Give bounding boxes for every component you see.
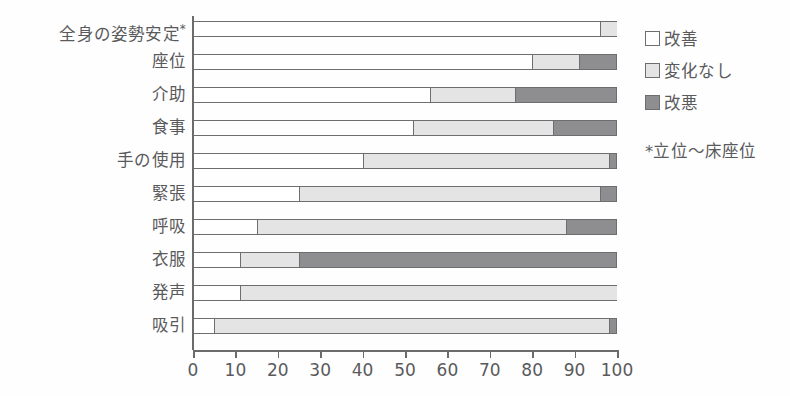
legend-footnote: *立位〜床座位: [645, 138, 790, 162]
stacked-bar: [193, 120, 617, 136]
x-axis: 0102030405060708090100: [193, 350, 617, 394]
x-axis-tick-label: 70: [479, 360, 501, 380]
x-axis-tick-label: 80: [521, 360, 543, 380]
x-axis-tick-label: 20: [267, 360, 289, 380]
bar-segment-改悪: [553, 120, 617, 136]
bar-row: [193, 249, 617, 271]
stacked-bar: [193, 54, 617, 70]
bar-segment-変化なし: [299, 186, 600, 202]
stacked-bar: [193, 186, 617, 202]
y-axis-label: 座位: [152, 51, 186, 73]
legend-item[interactable]: 変化なし: [645, 54, 790, 86]
bar-segment-改悪: [566, 219, 617, 235]
bar-segment-変化なし: [363, 153, 609, 169]
bar-row: [193, 117, 617, 139]
stacked-bar-chart: 全身の姿勢安定*座位介助食事手の使用緊張呼吸衣服発声吸引 01020304050…: [0, 0, 790, 396]
x-axis-tick-label: 30: [309, 360, 331, 380]
stacked-bar: [193, 87, 617, 103]
bar-segment-改善: [193, 318, 214, 334]
x-axis-tick: [405, 350, 407, 358]
y-axis-label: 食事: [152, 117, 186, 139]
bar-segment-変化なし: [430, 87, 515, 103]
x-axis-tick: [617, 350, 619, 358]
x-axis-tick: [363, 350, 365, 358]
bar-row: [193, 216, 617, 238]
bar-segment-改悪: [299, 252, 617, 268]
y-axis-label: 発声: [152, 282, 186, 304]
y-axis-label: 全身の姿勢安定*: [59, 18, 186, 40]
bar-row: [193, 150, 617, 172]
x-axis-tick-label: 50: [394, 360, 416, 380]
bar-segment-改善: [193, 21, 600, 37]
plot-area: [193, 18, 617, 348]
y-axis-label: 介助: [152, 84, 186, 106]
x-axis-tick-label: 100: [601, 360, 633, 380]
y-axis-category-labels: 全身の姿勢安定*座位介助食事手の使用緊張呼吸衣服発声吸引: [0, 18, 190, 348]
bar-segment-改善: [193, 87, 430, 103]
bar-row: [193, 51, 617, 73]
legend-label: 変化なし: [664, 58, 733, 82]
x-axis-tick: [575, 350, 577, 358]
bar-segment-改悪: [609, 318, 617, 334]
x-axis-tick-label: 0: [188, 360, 199, 380]
white-swatch: [645, 31, 660, 46]
bar-segment-改善: [193, 285, 240, 301]
legend-label: 改悪: [664, 90, 698, 114]
bar-segment-改悪: [515, 87, 617, 103]
bar-segment-改善: [193, 186, 299, 202]
x-axis-tick: [193, 350, 195, 358]
bar-segment-変化なし: [240, 285, 617, 301]
x-axis-tick: [490, 350, 492, 358]
bar-row: [193, 18, 617, 40]
bar-segment-変化なし: [257, 219, 567, 235]
light-gray-swatch: [645, 63, 660, 78]
y-axis-label: 呼吸: [152, 216, 186, 238]
stacked-bar: [193, 21, 617, 37]
bar-segment-変化なし: [214, 318, 608, 334]
x-axis-tick-label: 40: [352, 360, 374, 380]
stacked-bar: [193, 219, 617, 235]
y-axis-label: 衣服: [152, 249, 186, 271]
bar-segment-改善: [193, 120, 413, 136]
bar-segment-変化なし: [532, 54, 579, 70]
x-axis-tick: [235, 350, 237, 358]
legend: 改善変化なし改悪 *立位〜床座位: [645, 22, 790, 162]
legend-item[interactable]: 改悪: [645, 86, 790, 118]
bar-segment-改善: [193, 54, 532, 70]
x-axis-tick-label: 60: [437, 360, 459, 380]
x-axis-tick: [447, 350, 449, 358]
legend-items: 改善変化なし改悪: [645, 22, 790, 118]
stacked-bar: [193, 285, 617, 301]
x-axis-tick: [278, 350, 280, 358]
bar-segment-変化なし: [413, 120, 553, 136]
bar-row: [193, 315, 617, 337]
y-axis-label: 手の使用: [117, 150, 186, 172]
bar-segment-改善: [193, 219, 257, 235]
y-axis-label: 緊張: [152, 183, 186, 205]
dark-gray-swatch: [645, 95, 660, 110]
bar-segment-改悪: [609, 153, 617, 169]
bar-segment-改善: [193, 153, 363, 169]
stacked-bar: [193, 252, 617, 268]
x-axis-tick: [532, 350, 534, 358]
y-axis-label: 吸引: [152, 315, 186, 337]
x-axis-tick-label: 10: [225, 360, 247, 380]
x-axis-tick-label: 90: [564, 360, 586, 380]
legend-label: 改善: [664, 26, 698, 50]
stacked-bar: [193, 153, 617, 169]
bar-segment-改悪: [579, 54, 617, 70]
bar-segment-変化なし: [600, 21, 617, 37]
legend-item[interactable]: 改善: [645, 22, 790, 54]
bar-row: [193, 183, 617, 205]
x-axis-tick: [320, 350, 322, 358]
bar-segment-改善: [193, 252, 240, 268]
bar-row: [193, 84, 617, 106]
bar-segment-変化なし: [240, 252, 299, 268]
stacked-bar: [193, 318, 617, 334]
bar-row: [193, 282, 617, 304]
bar-segment-改悪: [600, 186, 617, 202]
